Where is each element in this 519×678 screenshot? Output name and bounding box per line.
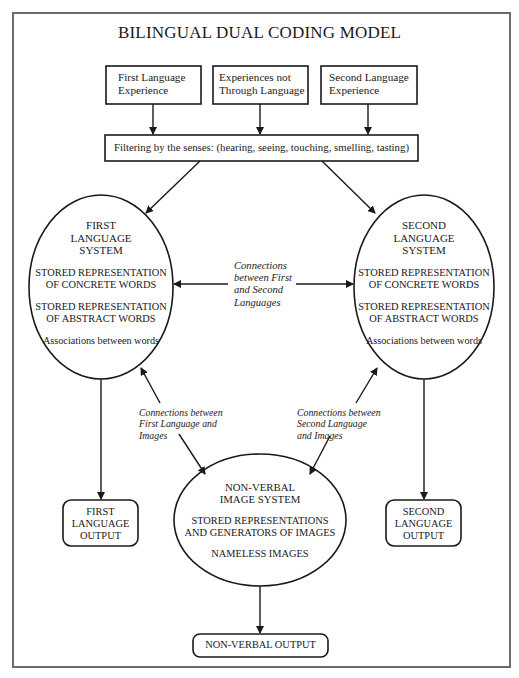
second-abstract-2: OF ABSTRACT WORDS [352,313,496,325]
conn-fs-1: Connections [234,260,292,272]
second-system-name-3: SYSTEM [352,244,496,257]
second-concrete-1: STORED REPRESENTATION [352,267,496,279]
image-system-name-1: NON-VERBAL [174,481,346,493]
first-output-3: OUTPUT [63,530,138,542]
first-concrete-1: STORED REPRESENTATION [29,267,173,279]
first-system-name-1: FIRST [29,219,173,232]
first-system-name-3: SYSTEM [29,244,173,257]
first-system-name: FIRST LANGUAGE SYSTEM [29,219,173,257]
second-output-1: SECOND [386,506,461,518]
first-system-name-2: LANGUAGE [29,232,173,245]
input-second-line1: Second Language [329,71,409,84]
conn-si-3: and Images [297,430,381,441]
image-stored-2: AND GENERATORS OF IMAGES [174,527,346,539]
image-system-name-2: IMAGE SYSTEM [174,493,346,505]
second-system-text: SECOND LANGUAGE SYSTEM STORED REPRESENTA… [352,219,496,346]
first-abstract-words: STORED REPRESENTATION OF ABSTRACT WORDS [29,301,173,325]
image-system-name: NON-VERBAL IMAGE SYSTEM [174,481,346,506]
first-output-text: FIRST LANGUAGE OUTPUT [63,506,138,542]
image-stored-1: STORED REPRESENTATIONS [174,515,346,527]
first-associations: Associations between words [29,335,173,347]
connections-second-images-label: Connections between Second Language and … [297,407,381,441]
first-abstract-1: STORED REPRESENTATION [29,301,173,313]
second-system-name-1: SECOND [352,219,496,232]
image-stored: STORED REPRESENTATIONS AND GENERATORS OF… [174,515,346,539]
second-concrete-words: STORED REPRESENTATION OF CONCRETE WORDS [352,267,496,291]
connections-first-images-label: Connections between First Language and I… [139,407,223,441]
conn-si-1: Connections between [297,407,381,418]
conn-fs-4: Languages [234,297,292,309]
arrow-filter-to-second-system [322,161,375,213]
conn-fi-1: Connections between [139,407,223,418]
second-abstract-words: STORED REPRESENTATION OF ABSTRACT WORDS [352,301,496,325]
first-concrete-2: OF CONCRETE WORDS [29,279,173,291]
arrow-images-to-second [356,368,377,403]
conn-fs-3: and Second [234,284,292,296]
filter-text: Filtering by the senses: (hearing, seein… [105,141,418,153]
second-output-2: LANGUAGE [386,518,461,530]
nameless-images: NAMELESS IMAGES [174,548,346,560]
second-associations: Associations between words [352,335,496,347]
first-output-1: FIRST [63,506,138,518]
diagram-title: BILINGUAL DUAL CODING MODEL [0,23,519,43]
second-output-3: OUTPUT [386,530,461,542]
input-first-line2: Experience [118,84,185,97]
first-system-text: FIRST LANGUAGE SYSTEM STORED REPRESENTAT… [29,219,173,346]
arrow-filter-to-first-system [146,161,200,213]
arrow-second-to-images [310,436,330,474]
connections-first-second-label: Connections between First and Second Lan… [234,260,292,309]
first-concrete-words: STORED REPRESENTATION OF CONCRETE WORDS [29,267,173,291]
image-system-text: NON-VERBAL IMAGE SYSTEM STORED REPRESENT… [174,481,346,560]
second-abstract-1: STORED REPRESENTATION [352,301,496,313]
input-nonlang-text: Experiences not Through Language [219,71,304,98]
input-first-line1: First Language [118,71,185,84]
second-system-name: SECOND LANGUAGE SYSTEM [352,219,496,257]
input-nonlang-line1: Experiences not [219,71,304,84]
conn-fi-3: Images [139,430,223,441]
input-nonlang-line2: Through Language [219,84,304,97]
arrow-images-to-first [141,368,160,403]
second-system-name-2: LANGUAGE [352,232,496,245]
first-abstract-2: OF ABSTRACT WORDS [29,313,173,325]
conn-fs-2: between First [234,272,292,284]
nonverbal-output-text: NON-VERBAL OUTPUT [193,639,328,651]
conn-si-2: Second Language [297,418,381,429]
second-concrete-2: OF CONCRETE WORDS [352,279,496,291]
second-output-text: SECOND LANGUAGE OUTPUT [386,506,461,542]
input-second-language-text: Second Language Experience [329,71,409,98]
input-second-line2: Experience [329,84,409,97]
first-output-2: LANGUAGE [63,518,138,530]
input-first-language-text: First Language Experience [118,71,185,98]
conn-fi-2: First Language and [139,418,223,429]
